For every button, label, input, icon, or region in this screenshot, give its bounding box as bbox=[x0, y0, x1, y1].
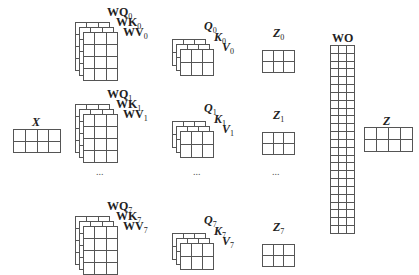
v-label: V1 bbox=[222, 123, 234, 140]
wo-matrix bbox=[330, 45, 355, 234]
z-head-label: Z7 bbox=[273, 221, 284, 238]
wv-label: WV0 bbox=[123, 26, 148, 43]
qkv-matrix-layer bbox=[180, 243, 214, 270]
x-matrix bbox=[13, 129, 61, 153]
wo-label: WO bbox=[332, 32, 353, 44]
x-label: X bbox=[32, 116, 40, 128]
z-head-matrix bbox=[262, 132, 295, 155]
v-label: V7 bbox=[222, 235, 234, 252]
weight-matrix-layer bbox=[83, 32, 118, 81]
z-head-label: Z0 bbox=[273, 27, 284, 44]
qkv-matrix-layer bbox=[180, 131, 214, 158]
v-label: V0 bbox=[222, 41, 234, 58]
weight-matrix-layer bbox=[83, 226, 118, 275]
ellipsis-z: ... bbox=[272, 166, 280, 177]
z-head-matrix bbox=[262, 244, 295, 267]
ellipsis-qkv: ... bbox=[193, 166, 201, 177]
z-head-label: Z1 bbox=[273, 109, 284, 126]
z-head-matrix bbox=[262, 50, 295, 73]
wv-label: WV1 bbox=[123, 108, 148, 125]
ellipsis-weights: ... bbox=[96, 166, 104, 177]
weight-matrix-layer bbox=[83, 114, 118, 163]
qkv-matrix-layer bbox=[180, 49, 214, 76]
wv-label: WV7 bbox=[123, 220, 148, 237]
z-output-label: Z bbox=[383, 115, 390, 127]
z-output-matrix bbox=[364, 127, 413, 152]
